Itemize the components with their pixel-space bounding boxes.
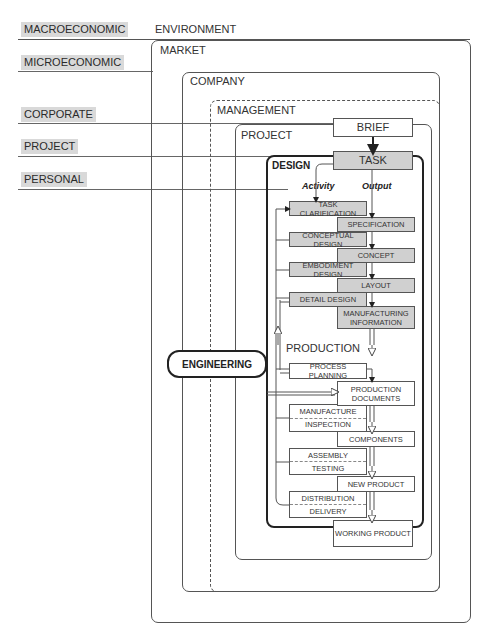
- connector-arrows: [0, 0, 485, 637]
